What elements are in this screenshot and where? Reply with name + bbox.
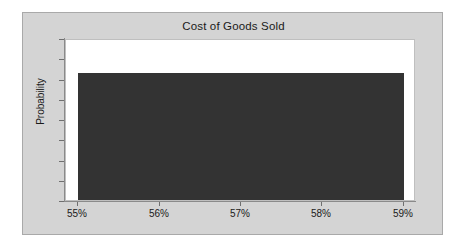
bar-series [66, 40, 414, 200]
x-axis-tick [403, 202, 404, 206]
y-axis-tick [59, 161, 64, 162]
plot-area [65, 39, 415, 201]
y-axis-tick [59, 80, 64, 81]
x-axis-tick-label: 58% [311, 208, 331, 219]
y-axis-tick [59, 140, 64, 141]
y-axis-line [64, 38, 65, 202]
y-axis-tick [59, 59, 64, 60]
y-axis-tick [59, 120, 64, 121]
x-axis-tick-label: 57% [230, 208, 250, 219]
y-axis-tick [59, 39, 64, 40]
y-axis-tick [59, 100, 64, 101]
chart-panel: Cost of Goods Sold 55%56%57%58%59% Proba… [22, 12, 443, 235]
x-axis-tick-label: 56% [149, 208, 169, 219]
x-axis-tick-label: 59% [393, 208, 413, 219]
x-axis-tick [240, 202, 241, 206]
y-axis-tick [59, 181, 64, 182]
chart-title: Cost of Goods Sold [23, 20, 444, 32]
x-axis-tick [77, 202, 78, 206]
y-axis-title: Probability [35, 57, 46, 147]
histogram-bar [78, 73, 404, 200]
x-axis-tick [159, 202, 160, 206]
x-axis-tick [321, 202, 322, 206]
y-axis-tick [59, 201, 64, 202]
x-axis-tick-label: 55% [67, 208, 87, 219]
